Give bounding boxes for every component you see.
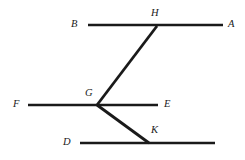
- vertex-label-A: A: [228, 19, 234, 30]
- segment-GH: [97, 26, 157, 105]
- diagram-canvas: B H A F G E D K: [0, 0, 245, 160]
- vertex-label-G: G: [85, 88, 93, 99]
- vertex-label-B: B: [71, 19, 77, 30]
- vertex-label-D: D: [63, 137, 71, 148]
- vertex-label-F: F: [13, 99, 19, 110]
- segment-GK: [97, 105, 149, 143]
- vertex-label-K: K: [151, 125, 158, 136]
- vertex-label-H: H: [151, 8, 159, 19]
- line-diagram-svg: [0, 0, 245, 160]
- vertex-label-E: E: [164, 99, 170, 110]
